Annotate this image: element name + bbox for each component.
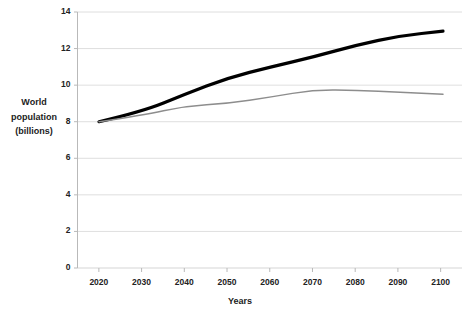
x-tick-label: 2030 xyxy=(122,277,162,287)
series-line-medium-projection xyxy=(99,90,443,122)
y-axis-title-line-3: (billions) xyxy=(2,124,66,139)
x-tick-label: 2040 xyxy=(164,277,204,287)
gridlines-group xyxy=(78,12,463,268)
y-tick-label: 10 xyxy=(51,80,71,89)
population-projection-chart: 14121086420 2020203020402050206020702080… xyxy=(0,0,469,320)
y-tick-label: 12 xyxy=(51,44,71,53)
x-tick-marks-group xyxy=(99,268,441,272)
y-axis-title-line-2: population xyxy=(2,110,66,125)
series-line-high-projection xyxy=(99,31,443,122)
x-tick-label: 2020 xyxy=(79,277,119,287)
y-tick-label: 2 xyxy=(51,226,71,235)
x-tick-label: 2080 xyxy=(335,277,375,287)
axis-lines-group xyxy=(74,12,78,268)
y-axis-title-line-1: World xyxy=(2,95,66,110)
y-tick-label: 14 xyxy=(51,7,71,16)
y-tick-label: 6 xyxy=(51,153,71,162)
x-tick-label: 2090 xyxy=(378,277,418,287)
x-tick-label: 2070 xyxy=(292,277,332,287)
x-tick-label: 2100 xyxy=(421,277,461,287)
x-tick-label: 2060 xyxy=(250,277,290,287)
y-tick-label: 4 xyxy=(51,190,71,199)
x-axis-title: Years xyxy=(180,296,300,306)
x-tick-label: 2050 xyxy=(207,277,247,287)
data-series-group xyxy=(99,31,443,122)
y-axis-title: World population (billions) xyxy=(2,95,66,139)
y-tick-label: 0 xyxy=(51,263,71,272)
